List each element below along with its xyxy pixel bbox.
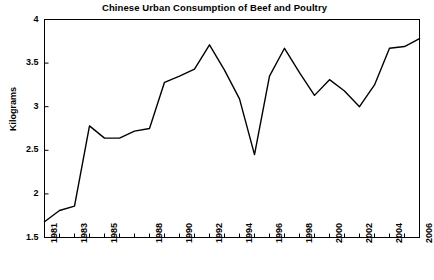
y-tick-label: 2 bbox=[13, 188, 39, 198]
y-tick-label: 4 bbox=[13, 14, 39, 24]
x-tick-label: 1983 bbox=[79, 222, 89, 242]
plot-frame bbox=[45, 20, 420, 238]
x-tick-label: 1996 bbox=[274, 222, 284, 242]
y-tick-label: 3.5 bbox=[13, 57, 39, 67]
y-tick-label: 2.5 bbox=[13, 144, 39, 154]
x-tick-label: 1998 bbox=[304, 222, 314, 242]
x-tick-label: 2000 bbox=[334, 222, 344, 242]
y-tick-label: 1.5 bbox=[13, 232, 39, 242]
x-tick-label: 1981 bbox=[49, 222, 59, 242]
x-tick-label: 1988 bbox=[154, 222, 164, 242]
y-tick-label: 3 bbox=[13, 101, 39, 111]
x-tick-label: 2004 bbox=[394, 222, 404, 242]
x-tick-label: 2002 bbox=[364, 222, 374, 242]
x-tick-label: 1985 bbox=[109, 222, 119, 242]
x-tick-label: 1992 bbox=[214, 222, 224, 242]
x-tick-label: 1990 bbox=[184, 222, 194, 242]
x-tick-label: 2006 bbox=[424, 222, 434, 242]
x-tick-label: 1994 bbox=[244, 222, 254, 242]
